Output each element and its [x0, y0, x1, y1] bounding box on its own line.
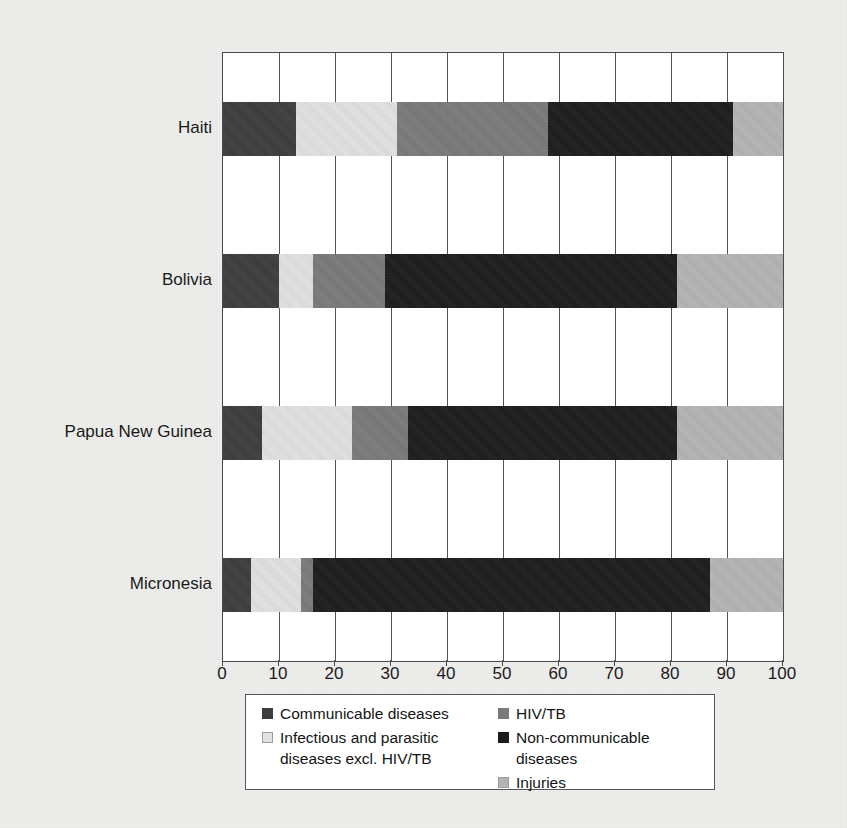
legend-item: Non-communicable diseases — [498, 728, 704, 769]
bar-row — [223, 254, 783, 308]
legend-label: Injuries — [516, 773, 566, 793]
x-tick-label: 60 — [549, 664, 568, 684]
bar-segment — [262, 406, 352, 460]
chart-legend: Communicable diseasesHIV/TBInfectious an… — [245, 694, 715, 790]
y-axis-category-label: Haiti — [178, 118, 212, 138]
bar-segment — [279, 254, 313, 308]
bar-segment — [397, 102, 548, 156]
bar-segment — [223, 102, 296, 156]
legend-item — [262, 773, 494, 793]
bar-segment — [408, 406, 677, 460]
bar-segment — [677, 406, 783, 460]
bar-segment — [223, 406, 262, 460]
legend-swatch — [262, 732, 273, 743]
chart-page: HaitiBoliviaPapua New GuineaMicronesia 0… — [0, 0, 847, 828]
bar-segment — [313, 558, 711, 612]
bar-segment — [710, 558, 783, 612]
bar-segment — [733, 102, 783, 156]
legend-item: Injuries — [498, 773, 704, 793]
legend-label: HIV/TB — [516, 704, 566, 724]
legend-item: HIV/TB — [498, 704, 704, 724]
y-axis-labels: HaitiBoliviaPapua New GuineaMicronesia — [0, 52, 212, 660]
bar-segment — [352, 406, 408, 460]
bar-segment — [251, 558, 301, 612]
x-tick-label: 0 — [217, 664, 226, 684]
x-tick-label: 80 — [661, 664, 680, 684]
x-axis-labels: 0102030405060708090100 — [222, 664, 782, 690]
x-tick-label: 100 — [768, 664, 796, 684]
bar-row — [223, 558, 783, 612]
bar-segment — [301, 558, 312, 612]
bar-row — [223, 406, 783, 460]
y-axis-category-label: Papua New Guinea — [65, 422, 212, 442]
bar-segment — [385, 254, 676, 308]
legend-item: Infectious and parasitic diseases excl. … — [262, 728, 494, 769]
legend-label: Communicable diseases — [280, 704, 449, 724]
legend-item: Communicable diseases — [262, 704, 494, 724]
legend-grid: Communicable diseasesHIV/TBInfectious an… — [262, 704, 704, 794]
x-tick-label: 90 — [717, 664, 736, 684]
legend-label: Non-communicable diseases — [516, 728, 704, 769]
x-tick-label: 10 — [269, 664, 288, 684]
bar-row — [223, 102, 783, 156]
x-tick-label: 20 — [325, 664, 344, 684]
x-tick-label: 70 — [605, 664, 624, 684]
bar-segment — [548, 102, 733, 156]
bar-segment — [313, 254, 386, 308]
x-tick-label: 30 — [381, 664, 400, 684]
x-tick-label: 50 — [493, 664, 512, 684]
legend-swatch — [498, 777, 509, 788]
y-axis-category-label: Micronesia — [130, 574, 212, 594]
bar-segment — [223, 254, 279, 308]
legend-label: Infectious and parasitic diseases excl. … — [280, 728, 439, 769]
legend-swatch — [498, 732, 509, 743]
x-tick-label: 40 — [437, 664, 456, 684]
bar-segment — [223, 558, 251, 612]
plot-area — [222, 52, 784, 662]
legend-swatch — [498, 708, 509, 719]
bar-segment — [296, 102, 397, 156]
legend-swatch — [262, 708, 273, 719]
bar-segment — [677, 254, 783, 308]
y-axis-category-label: Bolivia — [162, 270, 212, 290]
